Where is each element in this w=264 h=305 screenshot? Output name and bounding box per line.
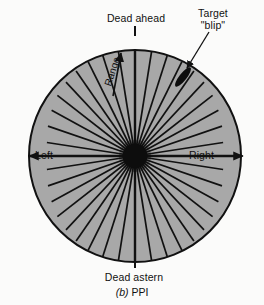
figure-caption-text: PPI — [131, 286, 148, 298]
label-right: Right — [189, 150, 214, 162]
figure-caption-letter: (b) — [116, 286, 129, 298]
label-target-line2: "blip" — [201, 19, 225, 31]
label-target-blip: Target "blip" — [178, 8, 248, 31]
label-target-line1: Target — [198, 7, 228, 19]
target-leader-line — [187, 32, 209, 68]
label-dead-ahead: Dead ahead — [91, 13, 181, 25]
figure-caption: (b) PPI — [0, 286, 264, 298]
label-left: Left — [35, 150, 53, 162]
figure-panel: Dead ahead Dead astern Left Right Target… — [0, 0, 264, 305]
label-dead-astern: Dead astern — [89, 272, 179, 284]
ppi-center-hub-glow — [119, 140, 151, 172]
